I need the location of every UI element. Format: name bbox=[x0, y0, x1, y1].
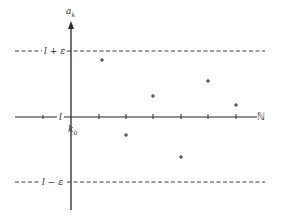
y-axis-arrowhead-icon bbox=[68, 21, 74, 29]
x-axis-label-text: ℕ bbox=[257, 111, 265, 122]
x-axis-label: ℕ bbox=[257, 112, 265, 122]
point-5 bbox=[206, 79, 210, 83]
point-2 bbox=[124, 133, 128, 137]
point-3 bbox=[151, 94, 155, 98]
lower-band-label: l − ε bbox=[40, 177, 65, 187]
point-4 bbox=[179, 155, 183, 159]
y-axis-label: ak bbox=[66, 6, 75, 20]
upper-band-label: l + ε bbox=[42, 46, 67, 56]
lower-band-label-text: l − ε bbox=[42, 177, 63, 187]
point-6 bbox=[234, 103, 238, 107]
limit-label-text: l bbox=[59, 112, 62, 122]
point-1 bbox=[100, 58, 104, 62]
origin-x-label-sub: 0 bbox=[73, 129, 77, 136]
origin-x-label: k0 bbox=[68, 124, 77, 138]
y-axis-label-sub: k bbox=[71, 11, 75, 18]
limit-label: l bbox=[57, 112, 64, 122]
upper-band-label-text: l + ε bbox=[44, 46, 65, 56]
sequence-points bbox=[100, 58, 238, 159]
sequence-convergence-diagram bbox=[0, 0, 287, 222]
